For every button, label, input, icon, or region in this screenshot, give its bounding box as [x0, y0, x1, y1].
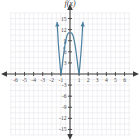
- curve-arrow-right-icon: [80, 22, 84, 26]
- y-tick-label: -3: [62, 82, 67, 88]
- curve-point-marker: [64, 42, 66, 44]
- axes: [1, 4, 139, 140]
- x-tick-label: 5: [114, 77, 117, 83]
- x-tick-label: -4: [31, 77, 36, 83]
- coordinate-plane: -6-5-4-3-2-11234561512963-3-6-9-12-15: [0, 0, 140, 140]
- x-tick-label: 3: [96, 77, 99, 83]
- x-tick-label: 6: [123, 77, 126, 83]
- y-tick-label: -9: [62, 104, 67, 110]
- graph-figure: f(x) -6-5-4-3-2-11234561512963-3-6-9-12-…: [0, 0, 140, 140]
- x-tick-label: -3: [40, 77, 45, 83]
- y-tick-label: -6: [62, 93, 67, 99]
- curve-point-marker: [63, 47, 65, 49]
- x-tick-label: -6: [13, 77, 18, 83]
- x-tick-label: -2: [49, 77, 54, 83]
- y-tick-label: -15: [59, 126, 67, 132]
- x-tick-label: -5: [22, 77, 27, 83]
- y-tick-label: 15: [61, 16, 67, 22]
- y-tick-label: 12: [61, 27, 67, 33]
- x-tick-label: 4: [105, 77, 108, 83]
- x-tick-label: 1: [78, 77, 81, 83]
- curve-arrow-left-icon: [55, 22, 59, 26]
- y-tick-label: -12: [59, 115, 67, 121]
- x-tick-label: 2: [87, 77, 90, 83]
- y-tick-label: 3: [64, 60, 67, 66]
